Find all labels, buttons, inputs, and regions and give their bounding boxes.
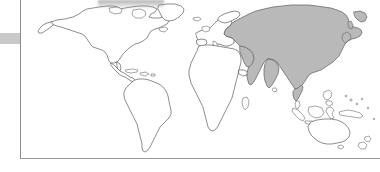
region-sri-lanka (272, 88, 277, 92)
figure-page (0, 0, 380, 172)
region-kamchatka (354, 11, 367, 22)
pacific-islet (345, 95, 347, 97)
region-new-zealand-north (364, 136, 371, 142)
region-north-america (51, 6, 169, 63)
margin-accent-bar (0, 33, 21, 44)
region-philippines-south (326, 101, 333, 106)
region-australia (308, 119, 350, 144)
pacific-islet (367, 107, 369, 109)
region-sakhalin (348, 21, 353, 29)
pacific-islet (350, 99, 352, 101)
region-south-america (124, 79, 171, 152)
pacific-islet (356, 103, 358, 105)
region-puerto-rico (151, 74, 155, 76)
region-new-zealand-south (358, 142, 367, 149)
pacific-islet (373, 118, 375, 120)
region-newfoundland (159, 27, 168, 32)
region-tasmania (338, 145, 344, 149)
region-borneo (308, 106, 324, 118)
world-map (21, 0, 380, 158)
region-sumatra (292, 108, 305, 121)
region-baffin-island (132, 9, 146, 18)
region-africa (189, 45, 241, 131)
region-iceland (193, 17, 201, 21)
region-japan (342, 32, 351, 43)
region-british-isles (202, 26, 210, 32)
pacific-islet (361, 98, 363, 100)
region-hispaniola (140, 72, 149, 76)
region-malay-peninsula (295, 101, 300, 109)
region-new-guinea (339, 110, 363, 118)
region-sulawesi (326, 107, 334, 119)
region-madagascar (242, 97, 249, 110)
region-philippines (323, 90, 332, 100)
scan-artifact-smudge (98, 0, 164, 9)
region-indian-subcontinent (264, 59, 279, 88)
region-alaska (38, 22, 53, 33)
figure-frame-bottom-rule (20, 158, 380, 159)
region-cuba (125, 69, 138, 73)
